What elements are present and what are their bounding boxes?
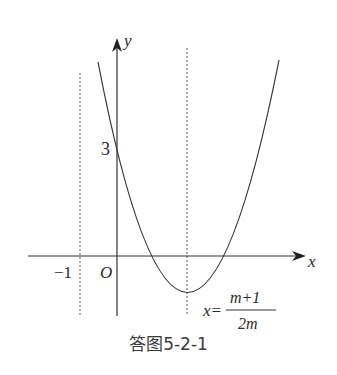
y-axis-label: y (122, 31, 132, 50)
graph: y x 3 O −1 x= m+1 2m (0, 0, 337, 375)
parabola (98, 60, 279, 293)
axis-eq-prefix: x= (202, 301, 222, 320)
figure: y x 3 O −1 x= m+1 2m 答图5-2-1 (0, 0, 337, 375)
y-intercept-label: 3 (101, 139, 110, 159)
x-axis-label: x (307, 252, 316, 271)
origin-label: O (100, 263, 112, 282)
axis-eq-numerator: m+1 (230, 289, 260, 306)
neg-one-label: −1 (54, 263, 72, 282)
figure-caption: 答图5-2-1 (0, 330, 337, 355)
